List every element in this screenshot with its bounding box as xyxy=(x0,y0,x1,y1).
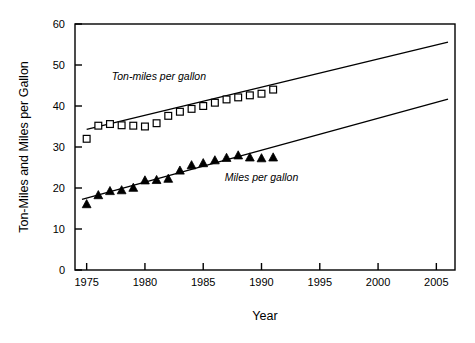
chart-figure: 0102030405060197519801985199019952000200… xyxy=(0,0,475,343)
data-point-marker xyxy=(270,86,277,93)
data-point-marker xyxy=(235,94,242,101)
trendline-series-1 xyxy=(82,99,448,199)
y-axis-title: Ton-Miles and Miles per Gallon xyxy=(17,61,31,233)
y-axis-tick-label: 0 xyxy=(59,264,65,276)
y-axis-tick-label: 40 xyxy=(53,100,65,112)
data-point-marker xyxy=(199,159,208,167)
y-axis-tick-label: 10 xyxy=(53,223,65,235)
data-point-marker xyxy=(82,200,91,208)
x-axis-tick-label: 2005 xyxy=(424,276,448,288)
y-axis-tick-label: 30 xyxy=(53,141,65,153)
data-point-marker xyxy=(130,122,137,129)
data-point-marker xyxy=(141,176,150,184)
data-point-marker xyxy=(95,122,102,129)
data-point-marker xyxy=(223,96,230,103)
x-axis-tick-label: 1980 xyxy=(133,276,157,288)
x-axis-title: Year xyxy=(252,309,277,323)
data-point-marker xyxy=(269,153,278,161)
data-point-marker xyxy=(222,153,231,161)
plot-frame xyxy=(75,24,455,270)
data-point-marker xyxy=(188,105,195,112)
x-axis-tick-label: 1985 xyxy=(191,276,215,288)
data-point-marker xyxy=(176,166,185,174)
data-point-marker xyxy=(107,121,114,128)
data-point-marker xyxy=(257,154,266,162)
y-axis-tick-label: 50 xyxy=(53,59,65,71)
y-axis-tick-label: 20 xyxy=(53,182,65,194)
x-axis-tick-label: 1975 xyxy=(74,276,98,288)
chart-canvas: 0102030405060197519801985199019952000200… xyxy=(0,0,475,343)
data-point-marker xyxy=(187,161,196,169)
series-annotation-0: Ton-miles per gallon xyxy=(112,70,206,82)
data-point-marker xyxy=(234,151,243,159)
data-point-marker xyxy=(258,90,265,97)
data-point-marker xyxy=(211,99,218,106)
data-point-marker xyxy=(200,103,207,110)
data-point-marker xyxy=(83,135,90,142)
data-point-marker xyxy=(177,108,184,115)
data-point-marker xyxy=(142,123,149,130)
x-axis-tick-label: 1995 xyxy=(308,276,332,288)
data-point-marker xyxy=(153,120,160,127)
data-point-marker xyxy=(246,92,253,99)
y-axis-tick-label: 60 xyxy=(53,18,65,30)
data-point-marker xyxy=(210,156,219,164)
data-point-marker xyxy=(165,112,172,119)
series-annotation-1: Miles per gallon xyxy=(225,171,299,183)
trendline-series-0 xyxy=(87,42,448,129)
data-point-marker xyxy=(118,122,125,129)
x-axis-tick-label: 1990 xyxy=(249,276,273,288)
x-axis-tick-label: 2000 xyxy=(366,276,390,288)
